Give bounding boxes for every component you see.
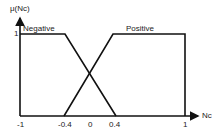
x-axis-label: Nc <box>202 112 212 120</box>
x-tick-1: 1 <box>183 121 187 129</box>
y-tick-1: 1 <box>14 30 18 38</box>
x-tick--0.4: -0.4 <box>58 121 72 129</box>
x-tick--1: -1 <box>17 121 24 129</box>
negative-membership-line <box>20 34 116 116</box>
negative-set-label: Negative <box>23 25 55 33</box>
positive-membership-line <box>64 34 185 116</box>
y-axis-label: μ(Nc) <box>10 5 30 13</box>
x-tick-0.4: 0.4 <box>109 121 120 129</box>
membership-function-plot <box>0 0 221 136</box>
x-tick-0: 0 <box>88 121 92 129</box>
positive-set-label: Positive <box>126 25 154 33</box>
